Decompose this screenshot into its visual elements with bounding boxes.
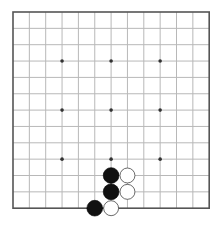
star-point	[109, 157, 113, 161]
go-board[interactable]	[0, 0, 217, 228]
star-point	[158, 157, 162, 161]
white-stone[interactable]	[104, 201, 119, 216]
black-stone[interactable]	[103, 184, 119, 200]
star-point	[158, 108, 162, 112]
star-point	[109, 108, 113, 112]
white-stone[interactable]	[120, 184, 135, 199]
star-point	[60, 108, 64, 112]
black-stone[interactable]	[87, 200, 103, 216]
white-stone[interactable]	[120, 168, 135, 183]
black-stone[interactable]	[103, 168, 119, 184]
star-point	[60, 157, 64, 161]
star-point	[109, 59, 113, 63]
star-point	[158, 59, 162, 63]
star-point	[60, 59, 64, 63]
